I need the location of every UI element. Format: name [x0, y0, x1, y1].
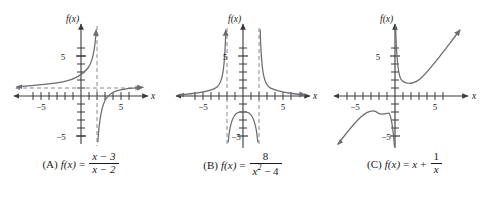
panel-a-x-tick-label-5: 5: [119, 102, 124, 112]
panel-c-caption-first-term: x: [412, 158, 417, 170]
panel-b-curve-right-branch: [260, 30, 305, 95]
panel-c: f(x) x 5 −5 −5 5 (C) f(x) = x + 1 x: [324, 0, 486, 197]
panel-c-caption-denominator: x: [431, 163, 442, 176]
panel-b-x-tick-label-neg5: −5: [198, 102, 208, 112]
panel-b-caption-equals: =: [239, 159, 245, 171]
panel-b-caption: (B) f(x) = 8 x2 − 4: [162, 152, 324, 178]
panel-b-curve-left-branch: [179, 30, 226, 95]
panel-c-y-tick-label-neg5: −5: [381, 132, 391, 142]
panel-a-caption-label: (A): [42, 158, 57, 170]
panel-b-y-tick-label-neg5: −5: [231, 132, 241, 142]
panel-b-caption-numerator: 8: [260, 151, 272, 163]
panel-c-caption: (C) f(x) = x + 1 x: [324, 152, 486, 177]
panel-c-y-axis-label: f(x): [380, 14, 393, 25]
panel-a-y-tick-label-5: 5: [61, 52, 66, 62]
panel-a-y-tick-label-neg5: −5: [56, 132, 66, 142]
panel-a-caption-denominator: x − 2: [89, 163, 118, 176]
panel-c-caption-numerator: 1: [430, 151, 442, 163]
panel-a-x-axis-left-arrow: [13, 94, 19, 99]
panel-b-x-axis-label: x: [312, 91, 318, 101]
panel-b-plot: f(x) x 5 −5 −5 5: [162, 0, 324, 152]
panel-c-caption-label: (C): [367, 158, 382, 170]
panel-a-plot: f(x) x 5 −5 −5 5: [0, 0, 162, 152]
panel-c-x-axis-label: x: [471, 91, 477, 101]
panel-b-y-axis-label: f(x): [228, 14, 241, 25]
panel-b-denominator-rest: − 4: [261, 165, 278, 177]
panel-a: f(x) x 5 −5 −5 5 (A) f(x) = x − 3 x − 2: [0, 0, 162, 197]
panel-c-x-axis-left-arrow: [333, 94, 339, 99]
panel-a-caption-numerator: x − 3: [89, 151, 118, 163]
rational-function-graphs-figure: f(x) x 5 −5 −5 5 (A) f(x) = x − 3 x − 2: [0, 0, 486, 197]
panel-c-y-tick-label-5: 5: [376, 52, 381, 62]
panel-c-svg: f(x) x 5 −5 −5 5: [324, 0, 486, 152]
panel-a-x-axis-label: x: [150, 91, 156, 101]
panel-a-y-axis-label: f(x): [66, 14, 79, 25]
panel-a-caption: (A) f(x) = x − 3 x − 2: [0, 152, 162, 177]
panel-c-curve-upper-branch: [396, 26, 460, 83]
panel-a-caption-fraction: x − 3 x − 2: [89, 151, 118, 176]
panel-c-x-tick-label-neg5: −5: [350, 102, 360, 112]
panel-c-caption-fraction: 1 x: [430, 151, 442, 176]
panel-c-caption-function: f(x): [385, 158, 400, 170]
panel-c-caption-plus: +: [420, 158, 426, 170]
panel-b-caption-fraction: 8 x2 − 4: [250, 151, 282, 177]
panel-b-caption-denominator: x2 − 4: [250, 163, 282, 178]
panel-a-x-tick-label-neg5: −5: [36, 102, 46, 112]
panel-c-caption-equals: =: [403, 158, 409, 170]
panel-a-caption-function: f(x): [61, 158, 76, 170]
panel-b-x-tick-label-5: 5: [281, 102, 286, 112]
panel-a-svg: f(x) x 5 −5 −5 5: [0, 0, 162, 152]
panel-b-y-tick-label-5: 5: [223, 52, 228, 62]
panel-a-caption-equals: =: [79, 158, 85, 170]
panel-b-caption-function: f(x): [221, 159, 236, 171]
panel-b-svg: f(x) x 5 −5 −5 5: [162, 0, 324, 152]
panel-c-curve-lower-arrow: [337, 139, 343, 145]
panel-c-plot: f(x) x 5 −5 −5 5: [324, 0, 486, 152]
panel-b: f(x) x 5 −5 −5 5 (B) f(x) = 8 x2 − 4: [162, 0, 324, 197]
panel-b-caption-label: (B): [203, 159, 218, 171]
panel-a-curve-left-branch: [17, 30, 96, 87]
panel-c-x-tick-label-5: 5: [433, 102, 438, 112]
